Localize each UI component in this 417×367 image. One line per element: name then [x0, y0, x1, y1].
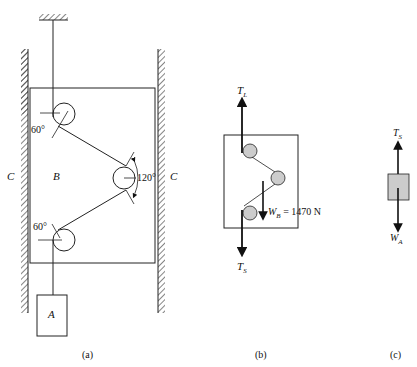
- tension-ts-c-label: TS: [393, 127, 402, 141]
- figure-c: [388, 145, 409, 228]
- pulley-top: [53, 103, 75, 125]
- right-wall: [158, 49, 165, 313]
- figure-b: [224, 102, 298, 252]
- weight-b-label: WB = 1470 N: [268, 206, 321, 220]
- left-wall: [21, 49, 28, 313]
- block-a-label: A: [48, 308, 55, 320]
- weight-a-label: WA: [390, 232, 403, 246]
- angle-bottom-label: 60°: [33, 221, 47, 232]
- box-b-label: B: [53, 170, 60, 182]
- caption-c: (c): [390, 349, 401, 360]
- ceiling-support: [39, 14, 68, 20]
- angle-top-label: 60°: [31, 124, 45, 135]
- tension-tl-label: TL: [237, 84, 247, 99]
- pulley-diagram: [0, 0, 417, 367]
- wall-left-label: C: [7, 170, 14, 182]
- tension-ts-label: TS: [237, 260, 247, 275]
- caption-b: (b): [255, 349, 267, 360]
- wall-right-label: C: [170, 170, 177, 182]
- angle-right-label: 120°: [137, 172, 156, 183]
- caption-a: (a): [82, 349, 93, 360]
